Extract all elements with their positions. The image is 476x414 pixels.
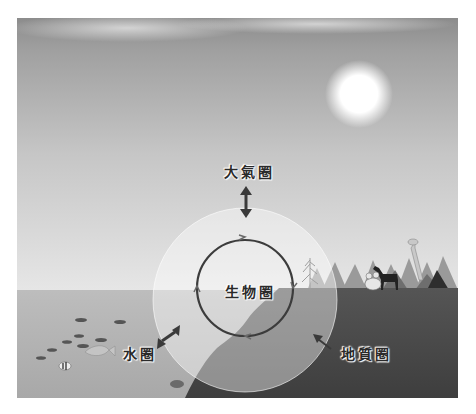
striped-fish-icon <box>59 362 71 370</box>
sun-icon <box>325 60 393 128</box>
geosphere-label: 地質圈 <box>341 346 392 362</box>
seaweed-icon <box>170 380 184 388</box>
biosphere-label: 生物圈 <box>225 284 276 300</box>
hydrosphere-label: 水圈 <box>123 346 157 362</box>
diagram-canvas <box>17 18 458 398</box>
atmosphere-label: 大氣圈 <box>224 164 275 180</box>
spheres-interaction-circle <box>153 208 337 392</box>
frog-icon <box>365 272 381 290</box>
earth-spheres-diagram: 大氣圈 生物圈 水圈 地質圈 <box>17 18 458 398</box>
